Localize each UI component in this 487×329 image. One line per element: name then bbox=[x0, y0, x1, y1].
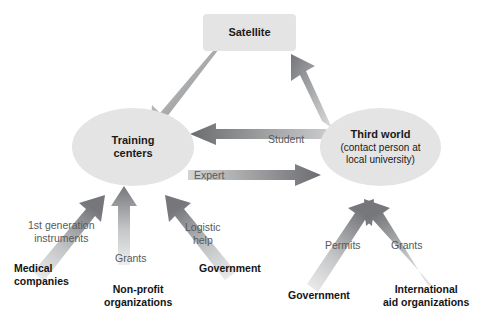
source-label-line1: Non-profit bbox=[113, 283, 164, 295]
node-third-world-label: Third world (contact person at local uni… bbox=[340, 128, 420, 166]
third-world-title: Third world bbox=[340, 128, 420, 141]
edge-label-grants-intlaid: Grants bbox=[391, 239, 423, 252]
edge-label-line2: help bbox=[193, 234, 213, 246]
training-label-line1: Training bbox=[112, 134, 155, 146]
source-label-line2: companies bbox=[14, 275, 69, 287]
third-world-sub-line2: local university) bbox=[340, 154, 420, 166]
node-training-centers[interactable]: Training centers bbox=[72, 108, 194, 186]
source-label-line1: Medical bbox=[14, 262, 53, 274]
source-label-non-profit-organizations: Non-profit organizations bbox=[104, 283, 172, 308]
arrow-student bbox=[190, 123, 326, 145]
source-label-international-aid-organizations: International aid organizations bbox=[383, 283, 469, 308]
diagram-canvas: Satellite Training centers Third world (… bbox=[0, 0, 487, 329]
training-label-line2: centers bbox=[113, 147, 152, 159]
node-satellite[interactable]: Satellite bbox=[203, 14, 296, 51]
source-label-government-right: Government bbox=[288, 289, 350, 302]
edge-label-permits: Permits bbox=[325, 239, 361, 252]
source-label-line2: organizations bbox=[104, 296, 172, 308]
edge-label-line1: 1st generation bbox=[28, 219, 95, 231]
source-label-line1: International bbox=[395, 283, 458, 295]
edge-label-line1: Logistic bbox=[185, 221, 221, 233]
edge-label-1st-generation-instruments: 1st generation instruments bbox=[28, 219, 95, 244]
edge-label-student: Student bbox=[268, 133, 304, 146]
node-training-centers-label: Training centers bbox=[112, 134, 155, 160]
edge-label-line2: instruments bbox=[34, 232, 88, 244]
third-world-sub-line1: (contact person at bbox=[340, 142, 420, 154]
edge-label-expert: Expert bbox=[194, 169, 224, 182]
edge-label-logistic-help: Logistic help bbox=[185, 221, 221, 246]
source-label-medical-companies: Medical companies bbox=[14, 262, 69, 287]
edge-label-grants-nonprofit: Grants bbox=[115, 252, 147, 265]
node-third-world[interactable]: Third world (contact person at local uni… bbox=[320, 108, 441, 186]
node-satellite-label: Satellite bbox=[228, 26, 270, 39]
source-label-line2: aid organizations bbox=[383, 296, 469, 308]
arrow-thirdworld-to-satellite bbox=[291, 54, 332, 128]
source-label-government-left: Government bbox=[199, 262, 261, 275]
